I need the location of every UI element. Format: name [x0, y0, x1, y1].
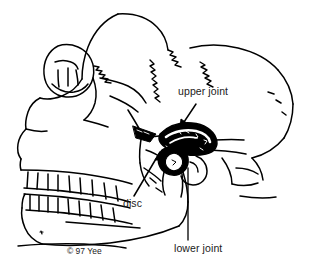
upper-tooth-sep-2	[37, 173, 38, 189]
lower-tooth-sep-6	[79, 201, 80, 216]
label-upper-joint: upper joint	[178, 86, 228, 97]
upper-tooth-sep-6	[80, 178, 81, 194]
tmj-diagram-figure: upper joint disc lower joint © 97 Yee	[0, 0, 309, 273]
label-disc: disc	[123, 198, 142, 209]
lower-tooth-sep-5	[68, 199, 69, 214]
upper-tooth-sep-5	[69, 176, 70, 192]
label-lower-joint: lower joint	[174, 243, 222, 254]
lower-joint-space	[165, 153, 182, 170]
upper-tooth-sep-7	[92, 180, 93, 196]
anterior-nasal-spine	[20, 159, 21, 170]
copyright-credit: © 97 Yee	[67, 247, 102, 256]
lower-tooth-sep-7	[90, 203, 91, 218]
skull-line-art	[0, 0, 309, 273]
upper-tooth-sep-1	[27, 172, 28, 188]
